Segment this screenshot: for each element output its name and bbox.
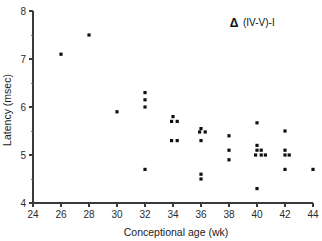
data-point-marker <box>260 153 263 156</box>
data-point-marker <box>283 149 286 152</box>
data-point-marker <box>255 121 258 124</box>
x-tick-label: 24 <box>27 209 39 220</box>
x-tick-label: 44 <box>307 209 319 220</box>
data-point-marker <box>204 130 207 133</box>
data-point-marker <box>227 134 230 137</box>
y-tick-label: 4 <box>20 198 26 209</box>
data-point-marker <box>198 130 201 133</box>
data-point-marker <box>283 168 286 171</box>
data-point-marker <box>264 153 267 156</box>
data-point-marker <box>254 153 257 156</box>
x-axis: 2426283032343638404244 <box>27 203 319 220</box>
data-point-marker <box>176 120 179 123</box>
x-tick-label: 28 <box>83 209 95 220</box>
data-point-marker <box>143 98 146 101</box>
x-tick-label: 36 <box>195 209 207 220</box>
x-tick-label: 40 <box>251 209 263 220</box>
y-tick-label: 5 <box>20 150 26 161</box>
data-point-marker <box>171 115 174 118</box>
data-point-marker <box>283 153 286 156</box>
data-point-marker <box>143 91 146 94</box>
data-point-marker <box>311 168 314 171</box>
y-tick-label: 7 <box>20 54 26 65</box>
data-point-marker <box>170 139 173 142</box>
data-point-marker <box>170 120 173 123</box>
data-point-marker <box>255 149 258 152</box>
data-point-marker <box>199 139 202 142</box>
y-tick-label: 6 <box>20 102 26 113</box>
data-point-marker <box>227 158 230 161</box>
legend-label: (IV-V)-I <box>243 17 275 28</box>
data-point-marker <box>255 144 258 147</box>
x-axis-title: Conceptional age (wk) <box>124 226 228 238</box>
x-tick-label: 30 <box>111 209 123 220</box>
y-axis: 45678 <box>20 6 33 209</box>
legend-delta-symbol: Δ <box>230 16 239 30</box>
data-point-marker <box>199 173 202 176</box>
data-point-marker <box>176 139 179 142</box>
data-point-marker <box>255 187 258 190</box>
y-tick-label: 8 <box>20 6 26 17</box>
data-point-marker <box>199 177 202 180</box>
data-point-marker <box>87 33 90 36</box>
data-point-marker <box>283 129 286 132</box>
x-tick-label: 32 <box>139 209 151 220</box>
data-point-marker <box>288 153 291 156</box>
data-point-marker <box>260 149 263 152</box>
data-point-marker <box>59 53 62 56</box>
data-points-layer <box>59 33 314 190</box>
data-point-marker <box>115 110 118 113</box>
x-tick-label: 26 <box>55 209 67 220</box>
data-point-marker <box>143 105 146 108</box>
x-tick-label: 34 <box>167 209 179 220</box>
data-point-marker <box>199 127 202 130</box>
x-tick-label: 42 <box>279 209 291 220</box>
data-point-marker <box>227 149 230 152</box>
data-point-marker <box>143 168 146 171</box>
x-tick-label: 38 <box>223 209 235 220</box>
y-axis-title: Latency (msec) <box>1 74 13 146</box>
scatter-plot-figure: 45678 2426283032343638404244 Conceptiona… <box>0 0 322 241</box>
plot-canvas: 45678 2426283032343638404244 Conceptiona… <box>0 0 322 241</box>
legend: Δ (IV-V)-I <box>230 16 275 30</box>
